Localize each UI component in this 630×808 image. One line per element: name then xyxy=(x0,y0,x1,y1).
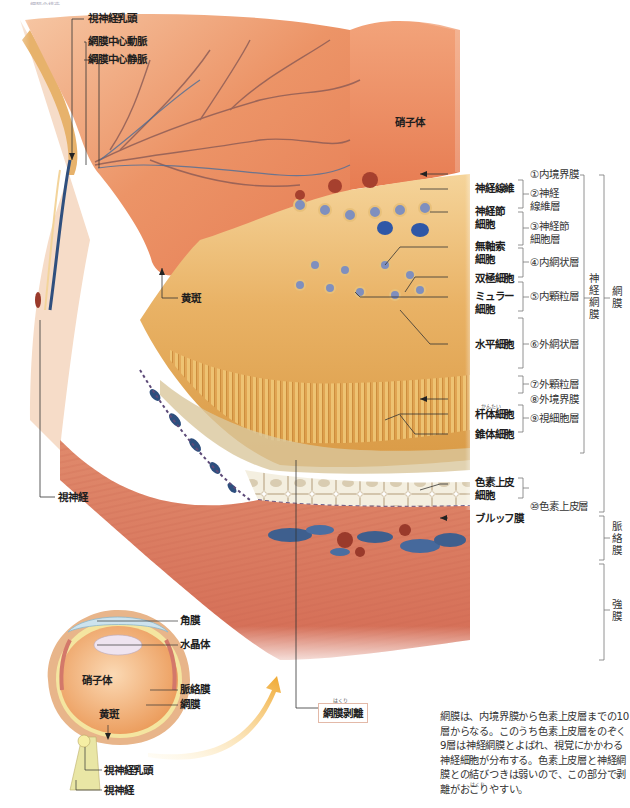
eye-label-macula: 黄斑 xyxy=(99,708,119,721)
layer-3: ③神経節 細胞層 xyxy=(530,220,580,246)
label-ganglion-cell: 神経節 細胞 xyxy=(475,205,515,231)
ruby-hakuri-badge: はくり xyxy=(333,696,348,703)
retinal-detachment-badge: 網膜剥離 xyxy=(318,703,368,723)
layer-9: ⑨視細胞層 xyxy=(530,412,578,425)
bracket-sclera: 強膜 xyxy=(611,598,623,622)
small-eye-illustration xyxy=(48,610,190,790)
eye-label-optic-disc: 視神経乳頭 xyxy=(104,764,153,777)
label-macula: 黄斑 xyxy=(181,292,201,305)
layer-7: ⑦外顆粒層 xyxy=(530,378,578,391)
label-central-retinal-artery: 網膜中心動脈 xyxy=(88,35,147,48)
caption-text: 網膜は、内境界膜から色素上皮層までの10層からなる。このうち色素上皮層をのぞく9… xyxy=(440,710,630,797)
label-muller-cell: ミュラー 細胞 xyxy=(475,290,521,316)
layer-10: ⑩色素上皮層 xyxy=(530,500,588,513)
layer-2: ②神経 線維層 xyxy=(530,187,580,213)
layer-8: ⑧外境界膜 xyxy=(530,393,578,406)
eye-label-vitreous: 硝子体 xyxy=(82,674,111,687)
layer-5: ⑤内顆粒層 xyxy=(530,290,578,303)
eye-label-optic-nerve: 視神経 xyxy=(104,784,133,797)
layer-4: ④内網状層 xyxy=(530,256,578,269)
label-cone-cell: 錐体細胞 xyxy=(475,428,514,441)
eye-label-retina: 網膜 xyxy=(180,698,200,711)
bracket-choroid: 脈絡膜 xyxy=(611,520,623,556)
eye-label-lens: 水晶体 xyxy=(180,638,209,651)
bracket-neural-retina: 神経網膜 xyxy=(588,272,600,320)
label-amacrine-cell: 無軸索 細胞 xyxy=(475,240,515,266)
label-optic-disc: 視神経乳頭 xyxy=(88,12,137,25)
label-bipolar-cell: 双極細胞 xyxy=(475,272,514,285)
label-horizontal-cell: 水平細胞 xyxy=(475,338,514,351)
label-rod-cell: 杆体細胞 xyxy=(475,408,514,421)
label-rpe-cell: 色素上皮 細胞 xyxy=(475,476,521,502)
eye-label-cornea: 角膜 xyxy=(180,614,200,627)
label-central-retinal-vein: 網膜中心静脈 xyxy=(88,53,147,66)
bracket-retina: 網膜 xyxy=(611,285,623,309)
layer-1: ①内境界膜 xyxy=(530,168,578,181)
label-optic-nerve: 視神経 xyxy=(58,491,87,504)
layer-6: ⑥外網状層 xyxy=(530,338,578,351)
label-bruch-membrane: ブルッフ膜 xyxy=(475,512,524,525)
eye-label-choroid: 脈絡膜 xyxy=(180,683,209,696)
retina-diagram: 網膜の構造 xyxy=(0,0,630,808)
label-nerve-fiber: 神経線維 xyxy=(475,182,514,195)
label-vitreous: 硝子体 xyxy=(395,116,424,129)
